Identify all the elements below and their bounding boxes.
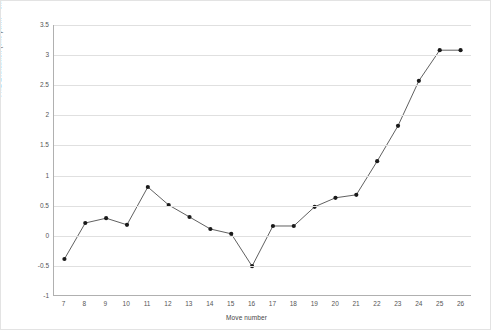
- x-axis-tick-label: 14: [206, 299, 213, 308]
- x-axis-tick-labels: 7891011121314151617181920212223242526: [53, 299, 471, 311]
- plot-area: [53, 25, 471, 296]
- x-axis-title: Move number: [1, 314, 491, 321]
- series-line: [64, 50, 460, 266]
- data-point-marker: [417, 79, 421, 83]
- chart-figure: 3.532.521.510.50-0.5-1 Fritz Evaluation …: [0, 0, 491, 330]
- gridline: [54, 266, 471, 267]
- gridline: [54, 236, 471, 237]
- data-point-marker: [125, 223, 129, 227]
- x-axis-tick-label: 7: [62, 299, 66, 308]
- x-axis-tick-label: 16: [248, 299, 255, 308]
- x-axis-tick-label: 9: [103, 299, 107, 308]
- gridline: [54, 85, 471, 86]
- x-axis-tick-label: 11: [144, 299, 151, 308]
- series-line-chart: [54, 25, 471, 295]
- y-axis-tick-label: 0: [45, 232, 49, 240]
- y-axis-tick-label: 3: [45, 51, 49, 59]
- x-axis-tick-label: 25: [436, 299, 443, 308]
- x-axis-tick-label: 23: [394, 299, 401, 308]
- x-axis-tick-label: 8: [83, 299, 87, 308]
- gridline: [54, 176, 471, 177]
- data-point-marker: [62, 257, 66, 261]
- y-axis-tick-label: 1.5: [40, 141, 49, 149]
- x-axis-tick-label: 21: [352, 299, 359, 308]
- data-point-marker: [458, 48, 462, 52]
- y-axis-tick-label: 2.5: [40, 81, 49, 89]
- y-axis-tick-label: 3.5: [40, 21, 49, 29]
- y-axis-tick-label: 1: [45, 172, 49, 180]
- gridline: [54, 206, 471, 207]
- data-point-marker: [187, 215, 191, 219]
- x-axis-tick-label: 18: [290, 299, 297, 308]
- x-axis-tick-label: 12: [164, 299, 171, 308]
- x-axis-tick-label: 26: [457, 299, 464, 308]
- data-point-marker: [375, 159, 379, 163]
- gridline: [54, 55, 471, 56]
- gridline: [54, 145, 471, 146]
- data-point-marker: [104, 216, 108, 220]
- gridline: [54, 25, 471, 26]
- data-point-marker: [438, 48, 442, 52]
- y-axis-tick-label: -1: [43, 292, 49, 300]
- x-axis-tick-label: 15: [227, 299, 234, 308]
- data-point-marker: [396, 124, 400, 128]
- x-axis-tick-label: 24: [415, 299, 422, 308]
- data-point-marker: [83, 221, 87, 225]
- y-axis-tick-label: 2: [45, 111, 49, 119]
- x-axis-tick-label: 22: [373, 299, 380, 308]
- x-axis-tick-label: 13: [185, 299, 192, 308]
- data-point-marker: [271, 224, 275, 228]
- x-axis-tick-label: 19: [311, 299, 318, 308]
- y-axis-tick-label: 0.5: [40, 202, 49, 210]
- data-point-marker: [146, 185, 150, 189]
- y-axis-title: Fritz Evaluation (one pawn = one point): [0, 0, 2, 97]
- y-axis-tick-label: -0.5: [38, 262, 49, 270]
- data-point-marker: [354, 193, 358, 197]
- data-point-marker: [292, 224, 296, 228]
- x-axis-tick-label: 17: [269, 299, 276, 308]
- gridline: [54, 115, 471, 116]
- y-axis-tick-labels: 3.532.521.510.50-0.5-1: [1, 25, 49, 296]
- x-axis-tick-label: 20: [332, 299, 339, 308]
- data-point-marker: [333, 196, 337, 200]
- data-point-marker: [208, 227, 212, 231]
- x-axis-tick-label: 10: [123, 299, 130, 308]
